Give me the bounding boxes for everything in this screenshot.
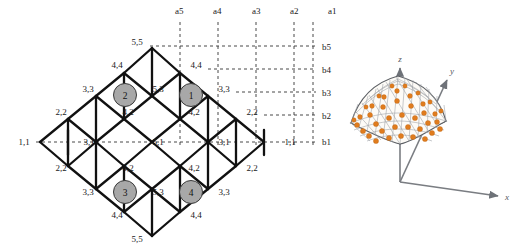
node-text: 4,4 — [111, 60, 123, 70]
label-b5: b5 — [322, 42, 332, 52]
node-text: 3,3 — [218, 84, 230, 94]
node-text: 5,5 — [131, 37, 143, 47]
node-text: 3,3 — [82, 84, 94, 94]
node-text: 5,1 — [152, 137, 163, 147]
node-text: 2,2 — [246, 163, 257, 173]
label-a2: a2 — [290, 6, 299, 16]
node-text: 5,3 — [152, 187, 164, 197]
node-text: 4,4 — [111, 210, 123, 220]
node-label-1: 1 — [189, 91, 194, 101]
node-text: 4,2 — [122, 107, 133, 117]
node-text: 2,2 — [55, 107, 66, 117]
node-label-4: 4 — [189, 188, 194, 198]
node-text: 2,2 — [246, 107, 257, 117]
node-text: 1,1 — [18, 137, 29, 147]
node-text: 1,1 — [284, 137, 295, 147]
label-a1: a1 — [328, 6, 337, 16]
node-label-3: 3 — [123, 188, 128, 198]
node-text: 4,4 — [190, 210, 202, 220]
label-a3: a3 — [252, 6, 261, 16]
node-text: 4,2 — [188, 163, 199, 173]
lattice-text-labels: a5 a4 a3 a2 a1 b5 b4 b3 b2 b1 5,5 4,4 4,… — [18, 6, 336, 244]
label-b3: b3 — [322, 88, 332, 98]
figure-svg: 2 1 3 4 a5 a4 a3 a2 a1 b5 b4 b3 b2 b1 5,… — [0, 0, 530, 249]
shell-surface — [351, 76, 446, 144]
label-b2: b2 — [322, 111, 331, 121]
axis-label-y: y — [449, 66, 454, 76]
node-text: 4,2 — [188, 107, 199, 117]
label-b1: b1 — [322, 137, 331, 147]
node-text: 4,4 — [190, 60, 202, 70]
plan-lattice-group: 2 1 3 4 a5 a4 a3 a2 a1 b5 b4 b3 b2 b1 5,… — [18, 6, 336, 244]
label-b4: b4 — [322, 65, 332, 75]
node-text: 3,1 — [83, 137, 94, 147]
label-a5: a5 — [175, 6, 184, 16]
axis-x-line — [400, 182, 498, 196]
node-text: 5,5 — [131, 234, 143, 244]
node-label-2: 2 — [123, 91, 128, 101]
figure-canvas: 2 1 3 4 a5 a4 a3 a2 a1 b5 b4 b3 b2 b1 5,… — [0, 0, 530, 249]
node-text: 3,3 — [82, 187, 94, 197]
node-text: 2,2 — [55, 163, 66, 173]
node-text: 3,1 — [218, 137, 229, 147]
node-text: 5,3 — [152, 84, 164, 94]
node-text: 4,2 — [122, 163, 133, 173]
node-text: 3,3 — [218, 187, 230, 197]
shell-3d-group: z y x — [351, 54, 509, 202]
axis-label-z: z — [397, 54, 402, 64]
label-a4: a4 — [213, 6, 222, 16]
axis-label-x: x — [504, 192, 509, 202]
